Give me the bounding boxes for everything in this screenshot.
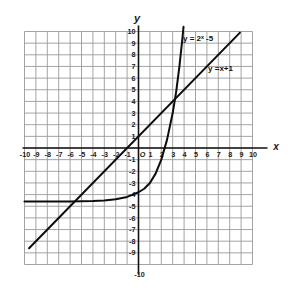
x-tick-label: -7 [56,150,62,159]
x-tick-label: 4 [183,150,187,159]
x-tick-label: 8 [228,150,232,159]
y-tick-label: 7 [132,62,136,71]
x-tick-label: O [140,150,146,159]
x-tick-label: -8 [45,150,51,159]
y-tick-label: -2 [129,167,135,176]
y-tick-label: 4 [132,97,136,106]
y-tick-label: -9 [129,248,135,257]
y-tick-label: 3 [132,109,136,118]
x-tick-label: 9 [240,150,244,159]
y-tick-label: 2 [132,120,136,129]
y-tick-label: -5 [129,202,135,211]
x-tick-label: 5 [194,150,198,159]
y-tick-label: 8 [132,50,136,59]
annotation-label: y = 2ˣ -5 [183,34,214,43]
y-tick-label: -8 [129,237,135,246]
x-tick-label: -5 [79,150,85,159]
x-tick-label: 6 [205,150,209,159]
annotation-label: y =x+1 [208,64,233,73]
y-tick-label: -7 [129,225,135,234]
x-tick-label: 3 [171,150,175,159]
curve-annotations: y = 2ˣ -5y =x+1 [183,34,234,73]
y-tick-label: 9 [132,39,136,48]
y-tick-label: -1 [129,155,135,164]
y-tick-label: 5 [132,85,136,94]
coordinate-plane: -10-9-8-7-6-5-4-3-2-1O123456789101098765… [0,0,288,300]
x-tick-label: -9 [33,150,39,159]
x-tick-label: -4 [90,150,96,159]
x-tick-label: 1 [148,150,152,159]
x-tick-label: -3 [102,150,108,159]
x-tick-label: 7 [217,150,221,159]
y-tick-label: 6 [132,74,136,83]
graph-figure: -10-9-8-7-6-5-4-3-2-1O123456789101098765… [0,0,288,300]
y-axis-label: y [133,12,141,24]
y-tick-label: 10 [128,27,136,36]
y-tick-label: -3 [129,179,135,188]
x-tick-label: 10 [249,150,257,159]
x-axis-label: x [272,141,279,152]
y-tick-label: -6 [129,214,135,223]
x-tick-label: -6 [67,150,73,159]
x-tick-label: -10 [20,150,30,159]
y-tick-label: -10 [134,270,144,279]
